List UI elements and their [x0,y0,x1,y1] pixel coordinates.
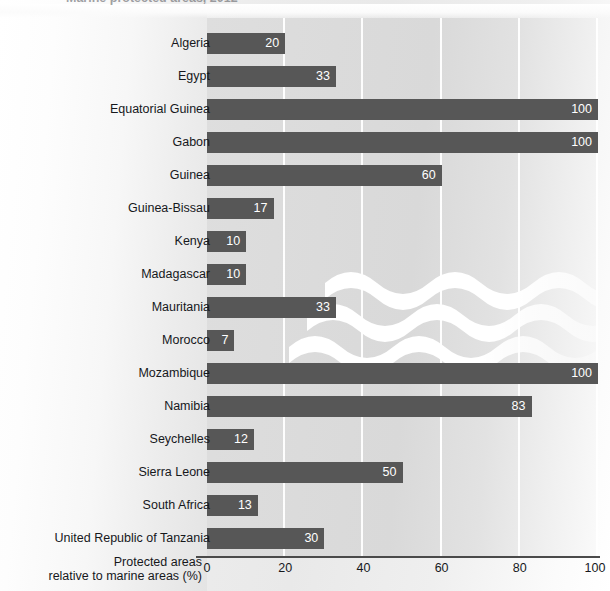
x-axis-title: Protected areas relative to marine areas… [12,556,202,583]
category-label-gabon: Gabon [10,132,210,153]
category-label-morocco: Morocco [10,330,210,351]
x-tick-20: 20 [278,561,292,575]
category-label-seychelles: Seychelles [10,429,210,450]
category-label-united-republic-of-tanzania: United Republic of Tanzania [0,528,210,549]
bar-4[interactable]: 60 [207,165,442,186]
x-tick-100: 100 [585,561,606,575]
category-label-madagascar: Madagascar [10,264,210,285]
chart-title-text: Marine protected areas, 2012 [66,0,238,5]
x-axis-title-line2: relative to marine areas (%) [12,570,202,584]
bar-value-3: 100 [571,132,592,153]
bar-value-13: 50 [383,462,397,483]
table-row: 100 [207,132,598,153]
bar-7[interactable]: 10 [207,264,246,285]
bar-value-6: 10 [226,231,240,252]
bar-value-8: 33 [316,297,330,318]
category-label-guinea-bissau: Guinea-Bissau [10,198,210,219]
chart-title-clipped: Marine protected areas, 2012 [0,0,610,7]
bar-value-7: 10 [226,264,240,285]
x-axis-title-line1: Protected areas [12,556,202,570]
category-label-egypt: Egypt [10,66,210,87]
category-label-south-africa: South Africa [10,495,210,516]
bar-value-11: 83 [512,396,526,417]
bar-14[interactable]: 13 [207,495,258,516]
table-row: 83 [207,396,598,417]
x-tick-80: 80 [513,561,527,575]
x-tick-60: 60 [435,561,449,575]
table-row: 60 [207,165,598,186]
category-label-mauritania: Mauritania [10,297,210,318]
bar-15[interactable]: 30 [207,528,324,549]
table-row: 10 [207,264,598,285]
x-tick-40: 40 [356,561,370,575]
plot-area: 20 33 100 100 60 17 [207,18,598,556]
table-row: 100 [207,99,598,120]
table-row: 10 [207,231,598,252]
category-label-guinea: Guinea [10,165,210,186]
table-row: 30 [207,528,598,549]
bar-12[interactable]: 12 [207,429,254,450]
table-row: 12 [207,429,598,450]
bar-2[interactable]: 100 [207,99,598,120]
bar-8[interactable]: 33 [207,297,336,318]
table-row: 13 [207,495,598,516]
table-row: 17 [207,198,598,219]
bar-value-15: 30 [304,528,318,549]
table-row: 50 [207,462,598,483]
category-label-kenya: Kenya [10,231,210,252]
category-label-mozambique: Mozambique [10,363,210,384]
bar-value-10: 100 [571,363,592,384]
bar-9[interactable]: 7 [207,330,234,351]
bar-value-12: 12 [234,429,248,450]
bar-10[interactable]: 100 [207,363,598,384]
bar-1[interactable]: 33 [207,66,336,87]
bar-value-1: 33 [316,66,330,87]
bar-11[interactable]: 83 [207,396,532,417]
bar-value-0: 20 [265,33,279,54]
bar-0[interactable]: 20 [207,33,285,54]
bar-5[interactable]: 17 [207,198,274,219]
bar-value-5: 17 [254,198,268,219]
table-row: 20 [207,33,598,54]
x-axis-line [196,556,600,558]
category-label-algeria: Algeria [10,33,210,54]
bar-value-4: 60 [422,165,436,186]
bar-value-9: 7 [221,330,228,351]
table-row: 100 [207,363,598,384]
table-row: 33 [207,297,598,318]
bar-13[interactable]: 50 [207,462,403,483]
table-row: 33 [207,66,598,87]
category-label-namibia: Namibia [10,396,210,417]
x-tick-0: 0 [204,561,211,575]
bar-6[interactable]: 10 [207,231,246,252]
category-label-equatorial-guinea: Equatorial Guinea [10,99,210,120]
table-row: 7 [207,330,598,351]
category-label-sierra-leone: Sierra Leone [10,462,210,483]
bar-value-14: 13 [238,495,252,516]
marine-protected-areas-chart: Marine protected areas, 2012 [0,0,610,591]
bar-value-2: 100 [571,99,592,120]
bar-3[interactable]: 100 [207,132,598,153]
